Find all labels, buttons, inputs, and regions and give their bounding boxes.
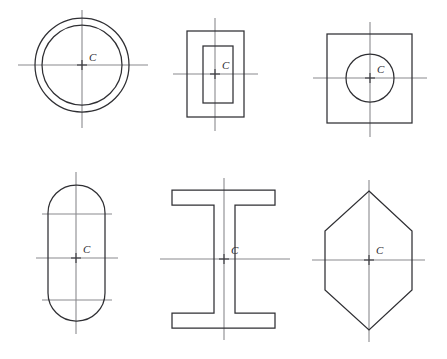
hollow-rectangle-centroid-label: C <box>222 59 230 71</box>
figure-canvas: C C C <box>0 0 447 359</box>
i-beam-centroid-label: C <box>231 244 239 256</box>
square-with-hole-centroid-label: C <box>377 63 385 75</box>
annulus-centroid-label: C <box>89 51 97 63</box>
stadium-centroid-label: C <box>83 243 91 255</box>
hexagon-centroid-label: C <box>376 244 384 256</box>
centroid-figure: C C C <box>0 0 447 359</box>
